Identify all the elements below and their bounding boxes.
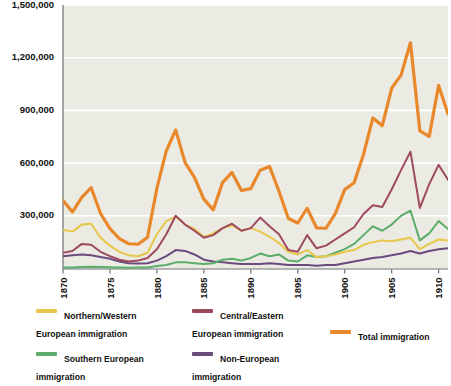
legend-item-northern-western: Northern/Western European immigration: [36, 305, 186, 341]
legend-item-non-european: Non-European immigration: [192, 348, 342, 384]
x-axis-tick-label: 1910: [433, 278, 444, 299]
x-axis-tick-label: 1870: [58, 278, 69, 299]
plot-area-wrapper: 300,000600,000900,0001,200,0001,500,0001…: [0, 0, 451, 300]
legend-item-total: Total immigration: [330, 326, 450, 344]
legend-column-middle: Central/Eastern European immigration Non…: [192, 305, 342, 386]
legend-label-non-european: Non-European immigration: [192, 354, 279, 382]
chart-canvas: 300,000600,000900,0001,200,0001,500,0001…: [0, 0, 451, 300]
chart-legend: Northern/Western European immigration So…: [0, 301, 451, 361]
legend-swatch-central-eastern: [192, 309, 213, 313]
y-axis-tick-label: 1,200,000: [12, 51, 54, 62]
legend-column-right: Total immigration: [330, 326, 450, 351]
legend-label-total: Total immigration: [358, 332, 429, 342]
legend-swatch-non-european: [192, 352, 213, 356]
legend-column-left: Northern/Western European immigration So…: [36, 305, 186, 386]
y-axis-tick-label: 300,000: [20, 209, 54, 220]
legend-item-southern: Southern European immigration: [36, 348, 186, 384]
x-axis-tick-label: 1905: [386, 277, 397, 299]
x-axis-tick-label: 1890: [245, 278, 256, 299]
legend-swatch-southern: [36, 352, 57, 356]
legend-label-southern: Southern European immigration: [36, 354, 144, 382]
x-axis-tick-label: 1885: [198, 277, 209, 299]
legend-swatch-northern-western: [36, 309, 57, 313]
x-axis-tick-label: 1895: [292, 277, 303, 299]
x-axis-tick-label: 1875: [105, 277, 116, 299]
x-axis-tick-label: 1880: [152, 278, 163, 299]
legend-item-central-eastern: Central/Eastern European immigration: [192, 305, 342, 341]
legend-label-central-eastern: Central/Eastern European immigration: [192, 311, 284, 339]
y-axis-tick-label: 1,500,000: [12, 0, 54, 10]
y-axis-tick-label: 600,000: [20, 157, 54, 168]
y-axis-tick-label: 900,000: [20, 104, 54, 115]
legend-label-northern-western: Northern/Western European immigration: [36, 311, 136, 339]
x-axis-tick-label: 1900: [339, 278, 350, 299]
legend-swatch-total: [330, 330, 351, 334]
